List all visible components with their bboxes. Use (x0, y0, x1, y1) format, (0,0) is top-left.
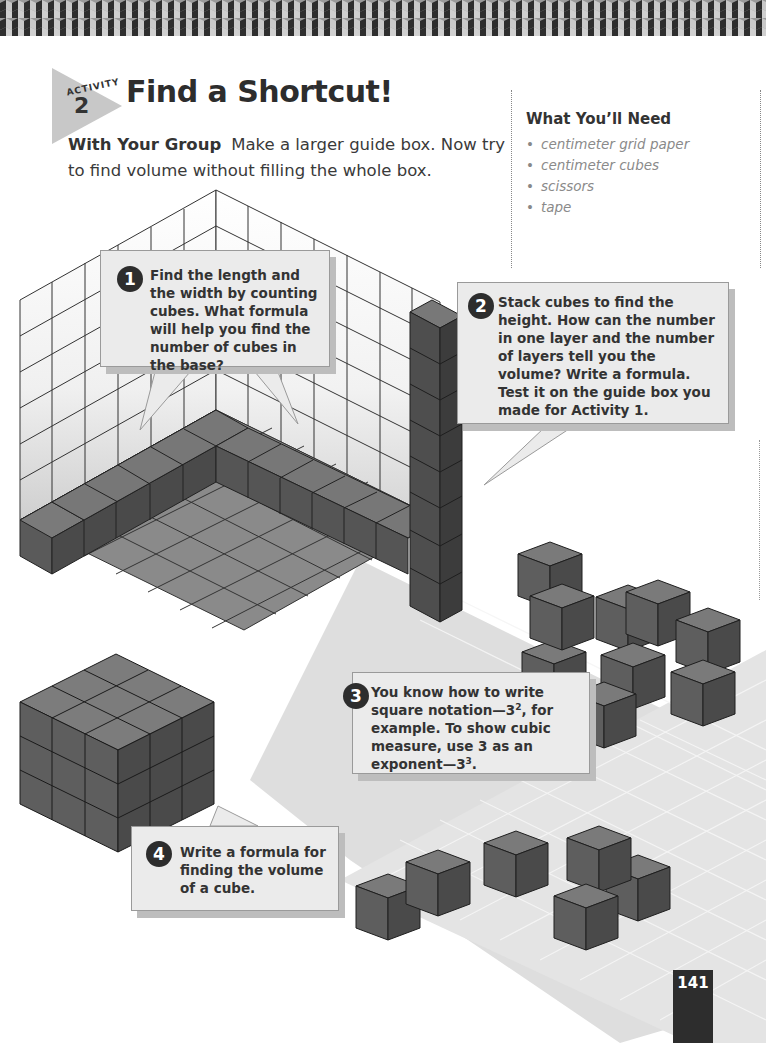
step-text: Stack cubes to find the height. How can … (498, 293, 723, 419)
step-2-callout: 2 Stack cubes to find the height. How ca… (457, 282, 729, 424)
page-number: 141 (673, 970, 713, 1043)
step-text: Find the length and the width by countin… (150, 266, 325, 374)
materials-item: centimeter cubes (526, 155, 689, 176)
step-text: Write a formula for finding the volume o… (180, 843, 336, 897)
cube-stack (410, 300, 462, 622)
three-by-three-cube (20, 654, 214, 852)
step-text-part: . (472, 756, 477, 772)
materials-item: centimeter grid paper (526, 134, 689, 155)
materials-heading: What You’ll Need (526, 110, 671, 128)
step-1-callout: 1 Find the length and the width by count… (100, 250, 330, 367)
step-4-callout: 4 Write a formula for finding the volume… (131, 826, 339, 911)
page-title: Find a Shortcut! (126, 74, 393, 109)
divider (759, 440, 760, 600)
activity-number: 2 (74, 93, 89, 118)
step-badge: 3 (343, 683, 369, 709)
materials-item: scissors (526, 176, 689, 197)
step-3-callout: 3 You know how to write square notation—… (352, 672, 590, 774)
materials-list: centimeter grid paper centimeter cubes s… (526, 134, 689, 218)
materials-item: tape (526, 197, 689, 218)
step-badge: 2 (468, 293, 494, 319)
step-badge: 4 (146, 841, 172, 867)
intro-lead: With Your Group (68, 135, 221, 154)
intro-paragraph: With Your GroupMake a larger guide box. … (68, 132, 508, 184)
step-text: You know how to write square notation—32… (371, 683, 587, 773)
materials-box: What You’ll Need centimeter grid paper c… (511, 90, 761, 268)
step-badge: 1 (117, 266, 143, 292)
